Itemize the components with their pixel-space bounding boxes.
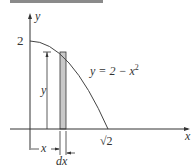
- strip-width-label: dx: [56, 154, 68, 168]
- curve-label-exponent: 2: [135, 63, 139, 72]
- x-dimension-arrow-icon: [55, 148, 60, 151]
- height-arrow-icon: [46, 52, 49, 57]
- area-strip-diagram: y 2 y y = 2 − x2 √2 x x dx: [0, 0, 193, 168]
- strip-height-label: y: [40, 83, 47, 97]
- area-strip: [60, 52, 66, 129]
- x-intercept-label: √2: [100, 134, 113, 148]
- curve-label: y = 2 − x2: [89, 63, 139, 78]
- strip-position-label: x: [40, 141, 47, 155]
- y-axis-label: y: [34, 9, 41, 23]
- y-axis-arrow-icon: [28, 13, 32, 19]
- y-intercept-label: 2: [17, 33, 24, 48]
- x-axis-label: x: [184, 129, 191, 143]
- curve-label-text: y = 2 − x: [89, 64, 136, 78]
